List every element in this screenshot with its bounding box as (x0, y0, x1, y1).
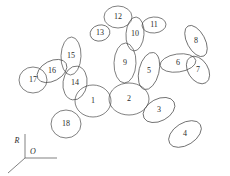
ellipse-label-6: 6 (176, 58, 180, 67)
ellipse-label-8: 8 (194, 36, 198, 45)
ellipse-label-2: 2 (127, 94, 131, 103)
ellipse-label-9: 9 (123, 58, 127, 67)
ellipse-nodes-group: 123456789101112131415161718 (19, 6, 214, 153)
ellipse-node-17[interactable]: 17 (19, 67, 47, 93)
ellipse-label-5: 5 (147, 66, 151, 75)
ellipse-node-5[interactable]: 5 (135, 50, 164, 92)
ellipse-node-1[interactable]: 1 (75, 85, 111, 117)
ellipse-node-15[interactable]: 15 (60, 37, 81, 76)
ellipse-node-12[interactable]: 12 (104, 6, 132, 28)
ellipse-label-13: 13 (96, 28, 104, 37)
axis-label-vertical: R (14, 136, 20, 145)
ellipse-node-4[interactable]: 4 (164, 115, 206, 153)
ellipse-skeleton-figure: 123456789101112131415161718 RO (0, 0, 230, 176)
ellipse-node-14[interactable]: 14 (61, 64, 89, 101)
ellipse-label-14: 14 (71, 78, 79, 87)
axis-label-origin: O (30, 147, 36, 156)
ellipse-node-10[interactable]: 10 (125, 16, 145, 51)
ellipse-node-3[interactable]: 3 (139, 92, 179, 127)
ellipse-node-16[interactable]: 16 (33, 55, 71, 88)
ellipse-label-12: 12 (114, 12, 122, 21)
ellipse-label-3: 3 (157, 105, 161, 114)
ellipse-node-18[interactable]: 18 (51, 110, 81, 138)
ellipse-node-8[interactable]: 8 (180, 22, 212, 60)
ellipse-label-4: 4 (183, 129, 187, 138)
axis-diagonal-line (8, 158, 25, 173)
ellipse-label-15: 15 (67, 51, 75, 60)
ellipse-label-16: 16 (48, 66, 56, 75)
ellipse-label-11: 11 (150, 20, 158, 29)
ellipse-node-11[interactable]: 11 (141, 16, 166, 34)
ellipse-label-7: 7 (196, 65, 200, 74)
ellipse-label-18: 18 (62, 119, 70, 128)
ellipse-label-1: 1 (91, 96, 95, 105)
ellipse-node-9[interactable]: 9 (113, 43, 136, 84)
coordinate-frame-group: RO (8, 134, 57, 173)
ellipse-label-10: 10 (131, 29, 139, 38)
ellipse-label-17: 17 (29, 75, 37, 84)
ellipse-node-6[interactable]: 6 (159, 52, 197, 75)
ellipse-node-13[interactable]: 13 (88, 23, 111, 43)
figure-canvas: 123456789101112131415161718 RO (0, 0, 230, 176)
ellipse-node-2[interactable]: 2 (109, 83, 149, 115)
